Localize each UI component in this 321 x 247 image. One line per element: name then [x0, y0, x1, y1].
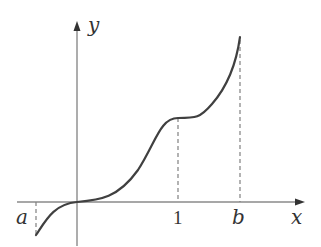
tick-label-b: b	[232, 205, 245, 229]
y-axis-arrow-icon	[74, 21, 81, 31]
function-graph: y x a 1 b	[0, 0, 321, 247]
y-axis-label: y	[87, 13, 100, 37]
tick-label-a: a	[16, 205, 28, 229]
x-axis-label: x	[291, 205, 302, 229]
function-curve	[36, 37, 240, 235]
tick-label-1: 1	[173, 207, 183, 228]
